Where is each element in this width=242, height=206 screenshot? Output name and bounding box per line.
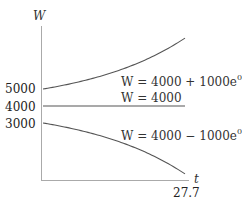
label-constant-main: W = 4000 bbox=[121, 91, 182, 105]
label-upper: W = 4000 + 1000e0.05t bbox=[121, 73, 242, 89]
label-lower-exp: 0.05t bbox=[237, 127, 242, 136]
label-upper-main: W = 4000 + 1000e bbox=[121, 75, 237, 89]
label-lower-main: W = 4000 − 1000e bbox=[121, 129, 237, 143]
chart: W t 5000 4000 3000 27.7 W = 4000 + 1000e… bbox=[0, 0, 242, 206]
y-tick-4000: 4000 bbox=[5, 100, 36, 114]
label-upper-exp: 0.05t bbox=[237, 73, 242, 82]
y-tick-3000: 3000 bbox=[5, 117, 36, 131]
x-tick-27-7: 27.7 bbox=[173, 186, 200, 200]
label-lower: W = 4000 − 1000e0.05t bbox=[121, 127, 242, 143]
label-constant: W = 4000 bbox=[121, 91, 182, 105]
x-axis-label: t bbox=[194, 172, 199, 186]
y-axis-label: W bbox=[33, 9, 47, 23]
y-tick-5000: 5000 bbox=[5, 82, 36, 96]
